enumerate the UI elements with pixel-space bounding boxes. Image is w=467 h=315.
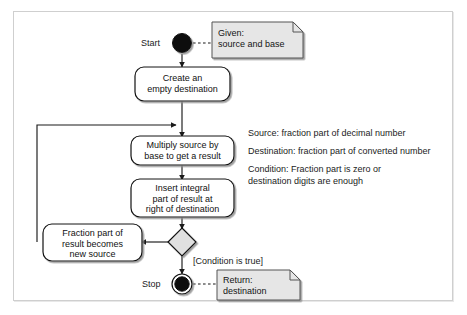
legend-line-source: Source: fraction part of decimal number [248, 128, 406, 140]
condition-guard-label: [Condition is true] [193, 256, 263, 267]
diagram-canvas: Start Stop Create an empty destination M… [0, 0, 467, 315]
action-node-multiply [131, 136, 234, 165]
action-node-insert [131, 179, 234, 217]
note-return-label: Return: destination [223, 275, 267, 297]
stop-node [172, 274, 192, 294]
legend-line-condition: Condition: Fraction part is zero or dest… [248, 164, 381, 187]
start-label: Start [141, 38, 160, 49]
note-given-label: Given: source and base [218, 28, 285, 50]
action-node-fraction [43, 224, 142, 261]
stop-label: Stop [142, 279, 161, 290]
action-node-create [135, 67, 230, 101]
decision-node [168, 228, 196, 256]
legend-line-destination: Destination: fraction part of converted … [248, 146, 431, 158]
start-node [173, 34, 192, 53]
